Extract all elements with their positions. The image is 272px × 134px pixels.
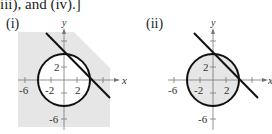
figure: iii), and (iv).] (i) (ii) xyxy=(0,0,272,134)
x-tick-label: -6 xyxy=(19,84,29,96)
x-axis-label: x xyxy=(121,74,127,86)
x-tick-label: -6 xyxy=(168,84,178,96)
x-tick-label: -2 xyxy=(194,84,203,96)
y-tick-label: 2 xyxy=(54,61,60,73)
y-tick-label: 2 xyxy=(203,61,209,73)
x-axis-label: x xyxy=(267,74,272,86)
y-axis-label: y xyxy=(61,17,67,28)
y-tick-label: -6 xyxy=(198,113,208,125)
y-axis-arrow-icon xyxy=(62,28,66,34)
x-tick-label: -2 xyxy=(45,84,54,96)
y-axis-label: y xyxy=(210,17,216,28)
y-axis-arrow-icon xyxy=(211,28,215,34)
graphs: x y -6 -2 2 2 -6 xyxy=(0,0,272,134)
x-tick-label: 2 xyxy=(75,84,81,96)
x-tick-label: 2 xyxy=(224,84,230,96)
graph-ii: x y -6 -2 2 2 -6 xyxy=(168,17,272,130)
y-tick-label: -6 xyxy=(49,113,59,125)
graph-i: x y -6 -2 2 2 -6 xyxy=(18,17,127,130)
x-axis-arrow-icon xyxy=(114,78,120,82)
